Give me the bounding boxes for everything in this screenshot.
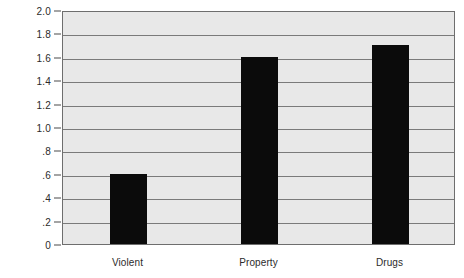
y-axis-tick-mark (54, 34, 61, 35)
y-axis: 0.2.4.6.81.01.21.41.61.82.0 (0, 0, 62, 278)
y-axis-tick-mark (54, 198, 61, 199)
bar-chart: 0.2.4.6.81.01.21.41.61.82.0 ViolentPrope… (0, 0, 464, 278)
y-axis-tick-label: 1.0 (36, 123, 51, 134)
y-axis-tick-label: 1.2 (36, 99, 51, 110)
y-axis-tick-mark (54, 57, 61, 58)
y-axis-tick-mark (54, 174, 61, 175)
y-axis-tick-label: 1.8 (36, 29, 51, 40)
bar (372, 45, 409, 244)
y-axis-tick-label: 1.6 (36, 52, 51, 63)
plot-area (62, 11, 455, 245)
y-axis-tick-mark (54, 221, 61, 222)
x-axis-tick-label: Property (239, 257, 278, 268)
y-axis-tick-mark (54, 81, 61, 82)
bar (241, 57, 278, 244)
y-axis-tick-mark (54, 11, 61, 12)
y-axis-tick-mark (54, 151, 61, 152)
y-axis-tick-label: .6 (42, 169, 51, 180)
x-axis-tick-label: Violent (112, 257, 143, 268)
y-axis-tick-mark (54, 104, 61, 105)
x-axis: ViolentPropertyDrugs (0, 245, 464, 278)
y-axis-tick-label: 2.0 (36, 6, 51, 17)
y-axis-tick-label: .2 (42, 216, 51, 227)
y-axis-tick-label: .4 (42, 193, 51, 204)
y-axis-tick-label: .8 (42, 146, 51, 157)
gridline (63, 35, 454, 36)
y-axis-tick-label: 1.4 (36, 76, 51, 87)
bar (110, 174, 147, 244)
x-axis-tick-label: Drugs (376, 257, 403, 268)
y-axis-tick-mark (54, 128, 61, 129)
